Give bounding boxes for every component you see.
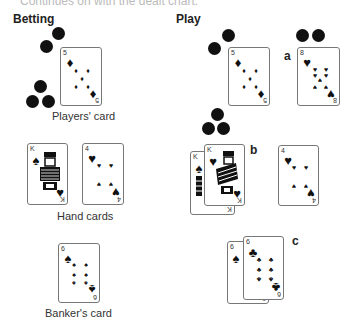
spade-icon: ♠: [196, 162, 203, 175]
card-rank: 5: [95, 97, 99, 104]
chip-icon: [40, 40, 53, 53]
label-c: c: [292, 234, 299, 248]
chip-icon: [42, 95, 55, 108]
card-rank: 6: [230, 243, 234, 250]
club-icon: ♣: [269, 266, 274, 273]
chip-icon: [312, 29, 325, 42]
chip-icon: [211, 108, 224, 121]
diamond-icon: ♦: [86, 67, 90, 74]
spade-icon: ♠: [65, 252, 72, 265]
spade-icon: ♠: [84, 280, 88, 287]
king-face-icon: [195, 176, 203, 196]
diamond-icon: ♦: [74, 83, 78, 90]
play-card-king-hearts: K ♥ ♥ K: [204, 144, 245, 206]
spade-icon: ♠: [84, 271, 88, 278]
heart-icon: ♥: [292, 164, 296, 171]
chip-icon: [296, 29, 309, 42]
hand-cards-caption: Hand cards: [57, 210, 113, 222]
chip-icon: [34, 80, 47, 93]
spade-icon: ♠: [84, 261, 88, 268]
spade-icon: ♠: [72, 280, 76, 287]
diamond-icon: ♦: [74, 67, 78, 74]
heart-icon: ♥: [324, 72, 328, 79]
heart-icon: ♥: [303, 56, 311, 69]
chip-icon: [52, 27, 65, 40]
diamond-icon: ♦: [67, 56, 74, 69]
heart-icon: ♥: [284, 154, 292, 167]
card-rank: 8: [333, 97, 337, 104]
diamond-icon: ♦: [242, 67, 246, 74]
card-rank: K: [227, 206, 232, 213]
chip-icon: [222, 29, 235, 42]
card-rank: K: [237, 197, 242, 204]
card-rank: 6: [277, 291, 281, 298]
play-card-8-hearts: 8 ♥ ♥ ♥ ♥ ♥ ♥ ♥ ♥ ♥ 8: [297, 47, 340, 106]
club-icon: ♣: [257, 266, 262, 273]
diamond-icon: ♦: [254, 67, 258, 74]
card-rank: 4: [117, 196, 121, 203]
spade-icon: ♠: [72, 271, 76, 278]
heart-icon: ♥: [97, 162, 101, 169]
players-card-caption: Players' card: [52, 110, 115, 122]
play-card-4-hearts: 4 ♥ ♥ ♥ ♥ ♥ ♥ 4: [278, 145, 319, 206]
card-rank: 6: [93, 294, 97, 301]
card-rank: K: [193, 153, 198, 160]
spade-icon: ♠: [233, 252, 240, 265]
chip-icon: [26, 95, 39, 108]
label-b: b: [250, 143, 257, 157]
play-heading: Play: [176, 12, 201, 26]
play-card-5-diamonds: 5 ♦ ♦ ♦ ♦ ♦ ♦ ♦ 5: [228, 47, 270, 106]
diamond-icon: ♦: [80, 75, 84, 82]
label-a: a: [284, 49, 291, 63]
players-card-5-diamonds: 5 ♦ ♦ ♦ ♦ ♦ ♦ ♦ 5: [60, 47, 102, 106]
heart-icon: ♥: [304, 164, 308, 171]
diamond-icon: ♦: [242, 83, 246, 90]
cut-off-header-text: Continues on with the dealt chart.: [20, 0, 198, 8]
chip-icon: [208, 42, 221, 55]
heart-icon: ♥: [109, 162, 113, 169]
play-card-6-clubs: 6 ♣ ♣ ♣ ♣ ♣ ♣ ♣ ♣ 6: [243, 236, 284, 300]
card-rank: 4: [312, 197, 316, 204]
heart-icon: ♥: [318, 77, 322, 84]
card-rank: 5: [263, 97, 267, 104]
diamond-icon: ♦: [235, 56, 242, 69]
hand-card-king-spades: K ♠ ♥ K: [27, 143, 68, 205]
banker-card-6-spades: 6 ♠ ♠ ♠ ♠ ♠ ♠ ♠ ♠ 6: [58, 243, 100, 303]
card-rank: K: [60, 196, 65, 203]
heart-icon: ♥: [313, 72, 317, 79]
chip-icon: [217, 122, 230, 135]
heart-icon: ♥: [97, 181, 101, 188]
hand-card-4-hearts: 4 ♥ ♥ ♥ ♥ ♥ ♥ 4: [82, 143, 124, 205]
heart-icon: ♥: [88, 152, 96, 165]
club-icon: ♣: [257, 256, 262, 263]
diamond-icon: ♦: [248, 75, 252, 82]
card-rank: K: [30, 145, 35, 152]
card-rank: K: [207, 146, 212, 153]
heart-icon: ♥: [292, 183, 296, 190]
betting-heading: Betting: [13, 12, 54, 26]
club-icon: ♣: [257, 276, 262, 283]
banker-card-caption: Banker's card: [45, 307, 112, 319]
spade-icon: ♠: [72, 261, 76, 268]
club-icon: ♣: [269, 256, 274, 263]
heart-icon: ♥: [313, 84, 317, 91]
chip-icon: [202, 122, 215, 135]
